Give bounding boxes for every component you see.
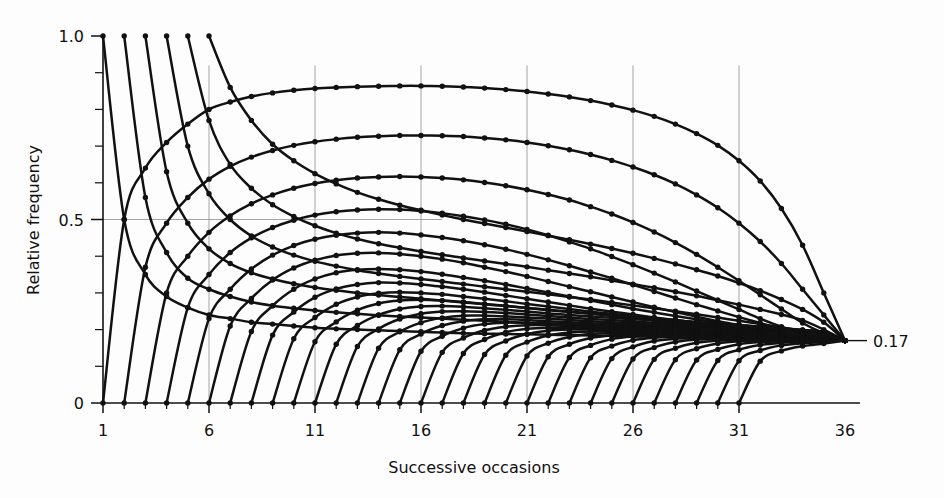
mesh-node bbox=[524, 296, 529, 301]
mesh-node bbox=[503, 261, 508, 266]
mesh-node bbox=[461, 287, 466, 292]
mesh-node bbox=[376, 291, 381, 296]
mesh-node bbox=[397, 316, 402, 321]
mesh-node bbox=[461, 325, 466, 330]
mesh-node bbox=[609, 336, 614, 341]
mesh-node bbox=[334, 286, 339, 291]
mesh-node bbox=[736, 158, 741, 163]
mesh-node bbox=[397, 174, 402, 179]
mesh-node bbox=[461, 331, 466, 336]
mesh-node bbox=[524, 264, 529, 269]
mesh-node bbox=[440, 279, 445, 284]
mesh-node bbox=[164, 290, 169, 295]
mesh-node bbox=[609, 158, 614, 163]
mesh-node bbox=[440, 309, 445, 314]
mesh-node bbox=[122, 217, 127, 222]
mesh-node bbox=[312, 325, 317, 330]
mesh-node bbox=[143, 195, 148, 200]
mesh-node bbox=[461, 313, 466, 318]
mesh-node bbox=[736, 358, 741, 363]
mesh-node bbox=[249, 201, 254, 206]
x-tick-label: 21 bbox=[517, 421, 537, 440]
x-tick-label: 31 bbox=[729, 421, 749, 440]
mesh-node bbox=[206, 287, 211, 292]
convergence-annotation: 0.17 bbox=[845, 332, 909, 351]
mesh-node bbox=[503, 222, 508, 227]
mesh-node bbox=[779, 306, 784, 311]
mesh-node bbox=[312, 308, 317, 313]
mesh-node bbox=[503, 269, 508, 274]
mesh-node bbox=[524, 274, 529, 279]
mesh-node bbox=[206, 230, 211, 235]
mesh-node bbox=[758, 342, 763, 347]
mesh-node bbox=[334, 136, 339, 141]
mesh-node bbox=[694, 252, 699, 257]
mesh-node bbox=[164, 33, 169, 38]
mesh-node bbox=[503, 183, 508, 188]
mesh-node bbox=[334, 233, 339, 238]
mesh-node bbox=[567, 197, 572, 202]
mesh-node bbox=[397, 347, 402, 352]
mesh-node bbox=[143, 265, 148, 270]
mesh-node bbox=[524, 331, 529, 336]
mesh-node bbox=[503, 329, 508, 334]
mesh-node bbox=[397, 245, 402, 250]
mesh-node bbox=[736, 302, 741, 307]
mesh-node bbox=[524, 89, 529, 94]
mesh-node bbox=[249, 320, 254, 325]
mesh-node bbox=[652, 310, 657, 315]
mesh-node bbox=[546, 333, 551, 338]
mesh-node bbox=[673, 289, 678, 294]
mesh-node bbox=[334, 85, 339, 90]
mesh-node bbox=[228, 287, 233, 292]
mesh-node bbox=[397, 267, 402, 272]
mesh-node bbox=[524, 252, 529, 257]
mesh-node bbox=[588, 246, 593, 251]
mesh-node bbox=[821, 320, 826, 325]
mesh-node bbox=[503, 287, 508, 292]
mesh-node bbox=[652, 172, 657, 177]
mesh-node bbox=[334, 263, 339, 268]
mesh-node bbox=[440, 284, 445, 289]
mesh-node bbox=[206, 33, 211, 38]
mesh-node bbox=[567, 284, 572, 289]
mesh-node bbox=[482, 328, 487, 333]
mesh-node bbox=[291, 88, 296, 93]
mesh-node bbox=[440, 315, 445, 320]
mesh-node bbox=[270, 332, 275, 337]
mesh-curve-descend-start-1 bbox=[103, 36, 845, 341]
mesh-node bbox=[164, 169, 169, 174]
mesh-node bbox=[418, 254, 423, 259]
mesh-node bbox=[567, 271, 572, 276]
mesh-node bbox=[418, 269, 423, 274]
mesh-node bbox=[609, 246, 614, 251]
mesh-node bbox=[334, 319, 339, 324]
mesh-node bbox=[567, 147, 572, 152]
mesh-node bbox=[546, 290, 551, 295]
mesh-node bbox=[185, 121, 190, 126]
mesh-node bbox=[588, 204, 593, 209]
mesh-node bbox=[228, 316, 233, 321]
mesh-node bbox=[588, 98, 593, 103]
mesh-node bbox=[524, 140, 529, 145]
mesh-node bbox=[461, 84, 466, 89]
y-tick-label: 1.0 bbox=[59, 27, 84, 46]
mesh-node bbox=[546, 233, 551, 238]
mesh-node bbox=[461, 294, 466, 299]
mesh-node bbox=[609, 356, 614, 361]
mesh-node bbox=[609, 211, 614, 216]
mesh-node bbox=[376, 346, 381, 351]
mesh-node bbox=[440, 298, 445, 303]
mesh-node bbox=[715, 347, 720, 352]
mesh-node bbox=[630, 262, 635, 267]
mesh-node bbox=[779, 312, 784, 317]
mesh-node bbox=[694, 346, 699, 351]
mesh-node bbox=[630, 356, 635, 361]
mesh-node bbox=[270, 277, 275, 282]
mesh-node bbox=[185, 276, 190, 281]
mesh-node bbox=[440, 175, 445, 180]
mesh-node bbox=[270, 202, 275, 207]
mesh-node bbox=[312, 258, 317, 263]
mesh-node bbox=[334, 270, 339, 275]
mesh-node bbox=[694, 267, 699, 272]
